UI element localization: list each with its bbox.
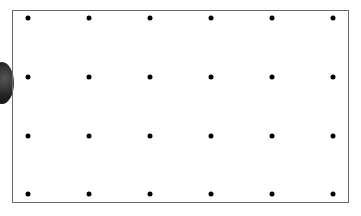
grid-dot <box>87 192 92 197</box>
grid-dot <box>26 134 31 139</box>
grid-dot <box>87 75 92 80</box>
grid-dot <box>87 16 92 21</box>
grid-dot <box>209 134 214 139</box>
grid-dot <box>270 192 275 197</box>
grid-dot <box>331 16 336 21</box>
grid-dot <box>87 134 92 139</box>
grid-dot <box>26 192 31 197</box>
grid-dot <box>331 75 336 80</box>
grid-dot <box>331 192 336 197</box>
grid-dot <box>148 75 153 80</box>
grid-dot <box>270 16 275 21</box>
grid-dot <box>270 75 275 80</box>
grid-dot <box>209 192 214 197</box>
dot-grid-frame <box>12 10 349 203</box>
grid-dot <box>148 134 153 139</box>
grid-dot <box>26 16 31 21</box>
grid-dot <box>209 75 214 80</box>
grid-dot <box>209 16 214 21</box>
grid-dot <box>26 75 31 80</box>
grid-dot <box>331 134 336 139</box>
grid-dot <box>148 16 153 21</box>
grid-dot <box>148 192 153 197</box>
grid-dot <box>270 134 275 139</box>
